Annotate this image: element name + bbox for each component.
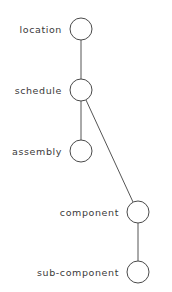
node-component: component (60, 201, 149, 223)
node-circle (70, 18, 92, 40)
node-sub-component: sub-component (37, 261, 149, 283)
node-location: location (20, 18, 93, 40)
node-label-assembly: assembly (12, 146, 62, 157)
node-label-location: location (20, 24, 63, 35)
node-circle (70, 140, 92, 162)
node-schedule: schedule (15, 79, 92, 101)
node-label-component: component (60, 207, 119, 218)
hierarchy-diagram: location schedule assembly component sub… (0, 0, 172, 292)
node-label-schedule: schedule (15, 85, 62, 96)
node-assembly: assembly (12, 140, 92, 162)
node-circle (70, 79, 92, 101)
node-circle (127, 261, 149, 283)
edge-schedule-component (86, 100, 133, 202)
node-circle (127, 201, 149, 223)
node-label-sub-component: sub-component (37, 267, 119, 278)
